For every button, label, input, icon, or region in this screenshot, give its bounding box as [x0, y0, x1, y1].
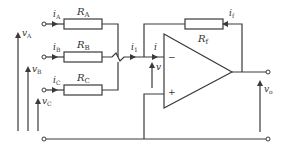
label-rf: Rf: [197, 33, 210, 46]
label-i: i: [154, 42, 157, 52]
terminal-output: [266, 70, 270, 74]
label-ic: iC: [53, 75, 61, 86]
label-ia: iA: [53, 9, 61, 20]
label-va: vA: [22, 28, 32, 39]
label-if: if: [229, 8, 235, 19]
label-v: v: [156, 62, 161, 72]
arrow-ic-icon: [52, 87, 58, 93]
resistor-rf: [185, 19, 223, 29]
label-ra: RA: [76, 6, 91, 19]
arrow-i1-icon: [130, 54, 136, 60]
opamp-minus-label: −: [168, 52, 176, 62]
arrow-ia-icon: [52, 21, 58, 27]
arrow-vc-icon: [35, 98, 41, 104]
label-rc: RC: [76, 72, 90, 85]
arrow-ib-icon: [52, 54, 58, 60]
arrow-v-icon: [149, 62, 155, 68]
label-vo: vo: [264, 84, 273, 95]
wire-rc-junction: [102, 62, 118, 90]
summing-amplifier-circuit: iA RA iB RB iC RC vA vB vC i1 i v Rf if …: [0, 0, 288, 150]
terminal-a: [42, 22, 46, 26]
resistor-rc: [64, 85, 102, 95]
terminal-ground-left: [42, 137, 46, 141]
terminal-b: [42, 55, 46, 59]
wire-ra-junction: [102, 24, 118, 57]
label-ib: iB: [53, 42, 61, 53]
arrow-i-icon: [152, 54, 158, 60]
resistor-ra: [64, 19, 102, 29]
arrow-vo-icon: [257, 80, 263, 86]
opamp-plus-label: +: [168, 87, 176, 97]
resistor-rb: [64, 52, 102, 62]
label-rb: RB: [76, 39, 90, 52]
terminal-c: [42, 88, 46, 92]
wire-feedback-right: [223, 24, 242, 72]
label-i1: i1: [131, 42, 138, 53]
wire-plus-ground: [144, 94, 164, 139]
arrow-vb-icon: [25, 66, 31, 72]
label-vb: vB: [32, 64, 42, 75]
terminal-ground-right: [266, 137, 270, 141]
label-vc: vC: [42, 96, 52, 107]
arrow-va-icon: [15, 32, 21, 38]
